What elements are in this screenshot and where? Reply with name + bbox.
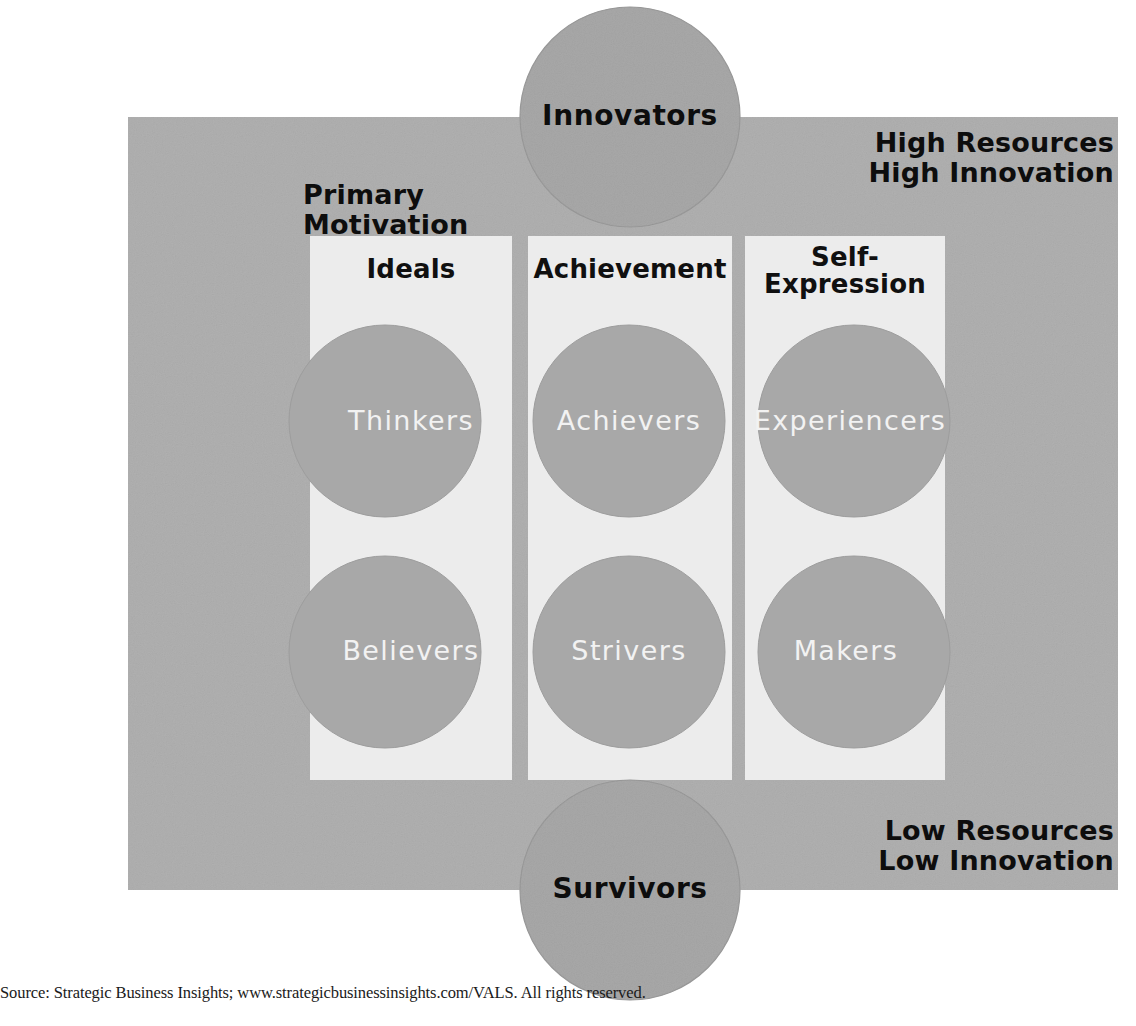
- column-header-ideals: Ideals: [310, 256, 512, 283]
- high-resources-label: High ResourcesHigh Innovation: [862, 128, 1114, 188]
- segment-label-achievers: Achievers: [509, 406, 749, 435]
- primary-motivation-label: PrimaryMotivation: [303, 180, 468, 240]
- self-expression-line2: Expression: [764, 269, 926, 299]
- segment-label-thinkers: Thinkers: [291, 406, 531, 435]
- column-header-achievement: Achievement: [528, 256, 732, 283]
- vals-framework-diagram: High ResourcesHigh Innovation Low Resour…: [0, 0, 1136, 1026]
- self-expression-line1: Self-: [811, 242, 879, 272]
- primary-motivation-line2: Motivation: [303, 209, 468, 240]
- primary-motivation-line1: Primary: [303, 179, 424, 210]
- pole-label-innovators: Innovators: [490, 101, 770, 131]
- segment-label-believers: Believers: [291, 636, 531, 665]
- low-resources-label: Low ResourcesLow Innovation: [862, 816, 1114, 876]
- high-resources-line1: High Resources: [875, 127, 1114, 158]
- pole-label-survivors: Survivors: [490, 874, 770, 904]
- segment-label-makers: Makers: [726, 636, 966, 665]
- source-attribution: Source: Strategic Business Insights; www…: [0, 983, 646, 1003]
- high-innovation-line2: High Innovation: [868, 157, 1114, 188]
- low-resources-line1: Low Resources: [885, 815, 1114, 846]
- segment-label-experiencers: Experiencers: [726, 406, 974, 435]
- segment-label-strivers: Strivers: [509, 636, 749, 665]
- low-innovation-line2: Low Innovation: [878, 845, 1114, 876]
- column-header-self-expression: Self-Expression: [745, 244, 945, 299]
